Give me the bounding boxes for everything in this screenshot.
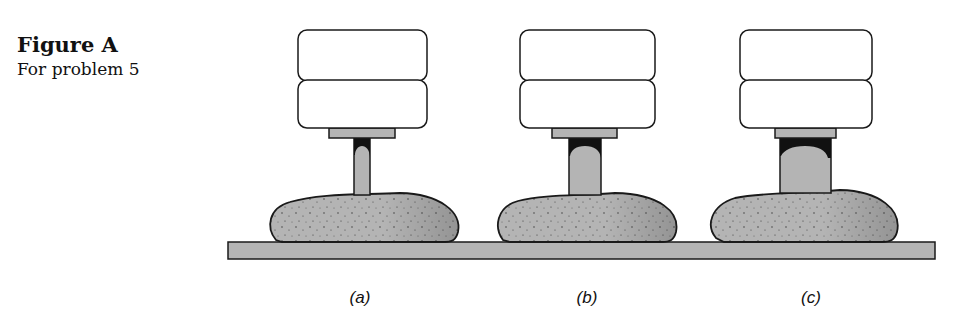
setup-a (270, 30, 458, 242)
weight-top (520, 30, 655, 81)
weight-top (740, 30, 872, 81)
collar (775, 128, 836, 138)
weight-bottom (520, 80, 655, 128)
weight-bottom (740, 80, 872, 128)
base-plate (228, 242, 935, 259)
diagram-canvas: (a) (b) (c) (0, 0, 960, 324)
weight-top (298, 30, 427, 81)
setup-b (498, 30, 677, 242)
weight-bottom (298, 80, 427, 128)
setup-c (711, 30, 898, 242)
label-b: (b) (577, 288, 598, 307)
label-a: (a) (350, 288, 371, 307)
collar (552, 128, 617, 138)
collar (329, 128, 395, 138)
label-c: (c) (801, 288, 821, 307)
